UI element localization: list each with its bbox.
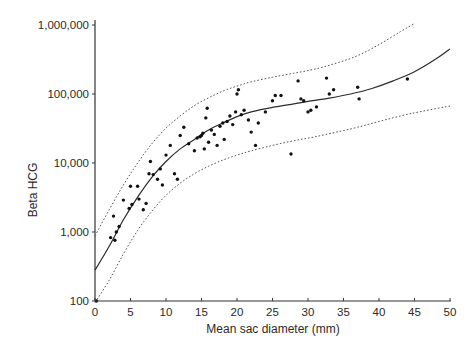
data-point — [240, 113, 243, 116]
y-tick-label: 10,000 — [54, 157, 89, 169]
data-point — [315, 105, 318, 108]
upper-confidence-curve — [95, 24, 415, 236]
x-tick-label: 15 — [195, 306, 208, 318]
data-point — [113, 239, 116, 242]
data-point — [130, 203, 133, 206]
data-point — [328, 92, 331, 95]
data-point — [182, 126, 185, 129]
data-point — [231, 123, 234, 126]
data-point — [144, 202, 147, 205]
data-point — [196, 136, 199, 139]
data-point — [147, 172, 150, 175]
y-axis-ticks: 1001,00010,000100,0001,000,000 — [38, 19, 95, 307]
data-point — [193, 149, 196, 152]
data-point — [207, 141, 210, 144]
data-point — [237, 88, 240, 91]
data-point — [109, 236, 112, 239]
data-point — [242, 109, 245, 112]
data-point — [136, 185, 139, 188]
data-point — [169, 144, 172, 147]
data-point — [250, 130, 253, 133]
data-point — [187, 142, 190, 145]
x-tick-label: 50 — [444, 306, 457, 318]
data-point — [213, 133, 216, 136]
x-tick-label: 30 — [302, 306, 315, 318]
x-tick-label: 20 — [231, 306, 244, 318]
data-point — [159, 167, 162, 170]
data-point — [115, 230, 118, 233]
data-point — [271, 99, 274, 102]
x-tick-label: 35 — [337, 306, 350, 318]
data-point — [161, 183, 164, 186]
data-point — [204, 116, 207, 119]
data-point — [279, 94, 282, 97]
data-point — [299, 97, 302, 100]
plot-area — [95, 24, 450, 303]
data-point — [142, 208, 145, 211]
data-point — [257, 121, 260, 124]
data-points — [95, 76, 409, 302]
data-point — [215, 144, 218, 147]
x-tick-label: 5 — [127, 306, 133, 318]
y-tick-label: 1,000,000 — [38, 19, 89, 31]
data-point — [225, 120, 228, 123]
data-point — [127, 207, 130, 210]
data-point — [203, 147, 206, 150]
x-axis-title: Mean sac diameter (mm) — [206, 322, 339, 336]
y-axis-title: Beta HCG — [26, 163, 40, 218]
data-point — [235, 92, 238, 95]
data-point — [201, 132, 204, 135]
data-point — [356, 86, 359, 89]
data-point — [264, 110, 267, 113]
data-point — [221, 121, 224, 124]
data-point — [332, 88, 335, 91]
y-tick-label: 100,000 — [47, 88, 89, 100]
data-point — [173, 172, 176, 175]
data-point — [254, 144, 257, 147]
data-point — [234, 110, 237, 113]
x-tick-label: 0 — [92, 306, 98, 318]
data-point — [357, 97, 360, 100]
data-point — [129, 185, 132, 188]
data-point — [218, 125, 221, 128]
data-point — [223, 138, 226, 141]
data-point — [179, 134, 182, 137]
data-point — [117, 225, 120, 228]
data-point — [164, 153, 167, 156]
data-point — [325, 76, 328, 79]
x-tick-label: 10 — [160, 306, 173, 318]
data-point — [122, 198, 125, 201]
data-point — [112, 214, 115, 217]
lower-confidence-curve — [95, 106, 450, 303]
data-point — [296, 79, 299, 82]
data-point — [274, 94, 277, 97]
data-point — [149, 160, 152, 163]
data-point — [206, 107, 209, 110]
y-tick-label: 100 — [70, 295, 89, 307]
data-point — [247, 118, 250, 121]
data-point — [137, 197, 140, 200]
data-point — [289, 152, 292, 155]
x-tick-label: 40 — [373, 306, 386, 318]
data-point — [152, 173, 155, 176]
y-tick-label: 1,000 — [60, 226, 89, 238]
x-tick-label: 25 — [266, 306, 279, 318]
confidence-bands — [95, 24, 450, 303]
data-point — [210, 128, 213, 131]
data-point — [406, 77, 409, 80]
regression-curve — [95, 49, 450, 270]
scatter-chart: 05101520253035404550 1001,00010,000100,0… — [0, 0, 474, 351]
x-tick-label: 45 — [408, 306, 421, 318]
data-point — [156, 178, 159, 181]
data-point — [309, 109, 312, 112]
data-point — [302, 99, 305, 102]
data-point — [176, 178, 179, 181]
data-point — [228, 114, 231, 117]
